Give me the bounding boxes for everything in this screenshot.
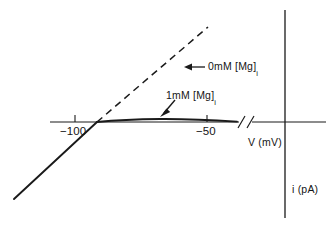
- series-label-0mm-mg-text: 0mM [Mg]: [208, 60, 256, 72]
- iv-curve-figure: −100 −50 0mM [Mg]i 1mM [Mg]i V (mV) i (p…: [0, 0, 331, 228]
- x-axis-title: V (mV): [248, 137, 282, 148]
- series-label-1mm-mg-text: 1mM [Mg]: [166, 89, 214, 101]
- series-label-1mm-mg: 1mM [Mg]i: [166, 90, 216, 104]
- axis-break-slash-1: [238, 116, 245, 128]
- y-axis-title: i (pA): [292, 184, 318, 195]
- series-line-0mm-mg: [97, 27, 208, 122]
- x-tick-label-minus-50: −50: [196, 126, 216, 138]
- annotation-arrow-0mm: [184, 64, 205, 71]
- series-label-1mm-mg-subscript: i: [214, 98, 216, 107]
- plot-canvas: [0, 0, 331, 228]
- x-tick-label-minus-100: −100: [60, 126, 86, 138]
- series-label-0mm-mg-subscript: i: [256, 69, 258, 78]
- series-label-0mm-mg: 0mM [Mg]i: [208, 61, 258, 75]
